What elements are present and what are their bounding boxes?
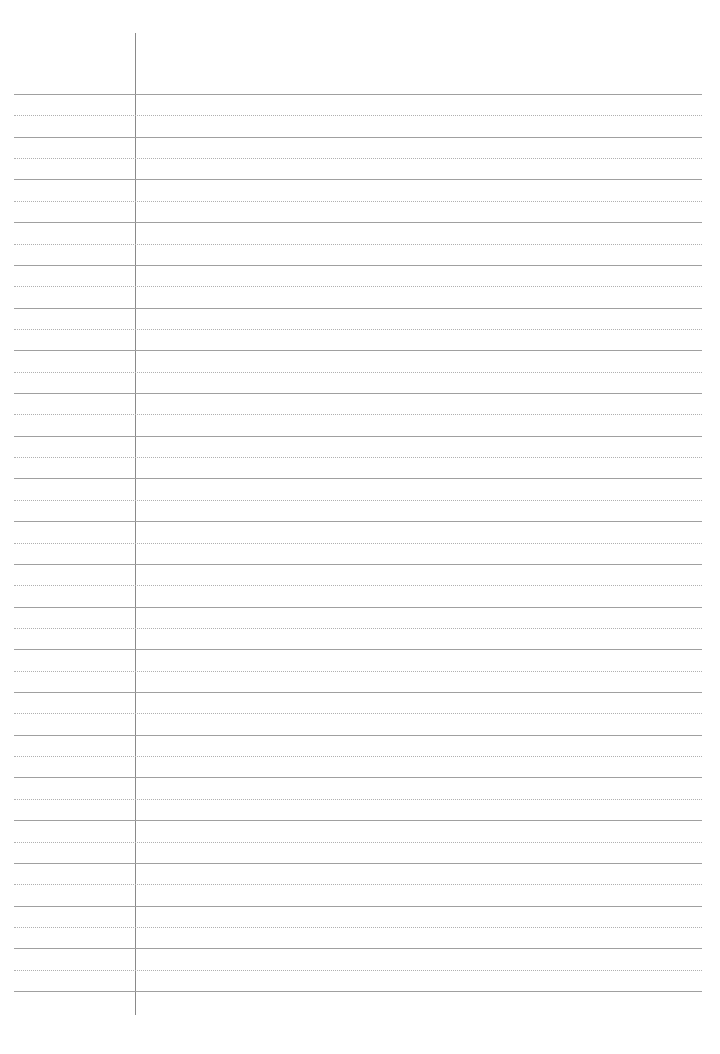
dotted-rule xyxy=(14,286,702,287)
dotted-rule xyxy=(14,756,702,757)
dotted-rule xyxy=(14,372,702,373)
solid-rule xyxy=(14,308,702,309)
solid-rule xyxy=(14,393,702,394)
solid-rule xyxy=(14,179,702,180)
solid-rule xyxy=(14,735,702,736)
lined-paper-page xyxy=(0,0,720,1054)
dotted-rule xyxy=(14,884,702,885)
dotted-rule xyxy=(14,927,702,928)
solid-rule xyxy=(14,521,702,522)
solid-rule xyxy=(14,222,702,223)
solid-rule xyxy=(14,137,702,138)
solid-rule xyxy=(14,265,702,266)
dotted-rule xyxy=(14,628,702,629)
solid-rule xyxy=(14,820,702,821)
dotted-rule xyxy=(14,970,702,971)
dotted-rule xyxy=(14,543,702,544)
dotted-rule xyxy=(14,158,702,159)
solid-rule xyxy=(14,692,702,693)
solid-rule xyxy=(14,607,702,608)
dotted-rule xyxy=(14,414,702,415)
dotted-rule xyxy=(14,585,702,586)
solid-rule xyxy=(14,564,702,565)
solid-rule xyxy=(14,478,702,479)
dotted-rule xyxy=(14,671,702,672)
solid-rule xyxy=(14,436,702,437)
solid-rule xyxy=(14,649,702,650)
solid-rule xyxy=(14,777,702,778)
dotted-rule xyxy=(14,201,702,202)
dotted-rule xyxy=(14,500,702,501)
dotted-rule xyxy=(14,457,702,458)
dotted-rule xyxy=(14,329,702,330)
solid-rule xyxy=(14,906,702,907)
dotted-rule xyxy=(14,713,702,714)
solid-rule xyxy=(14,94,702,95)
dotted-rule xyxy=(14,244,702,245)
solid-rule xyxy=(14,863,702,864)
dotted-rule xyxy=(14,115,702,116)
solid-rule xyxy=(14,948,702,949)
margin-line xyxy=(135,33,136,1015)
dotted-rule xyxy=(14,799,702,800)
solid-rule xyxy=(14,350,702,351)
solid-rule xyxy=(14,991,702,992)
dotted-rule xyxy=(14,842,702,843)
